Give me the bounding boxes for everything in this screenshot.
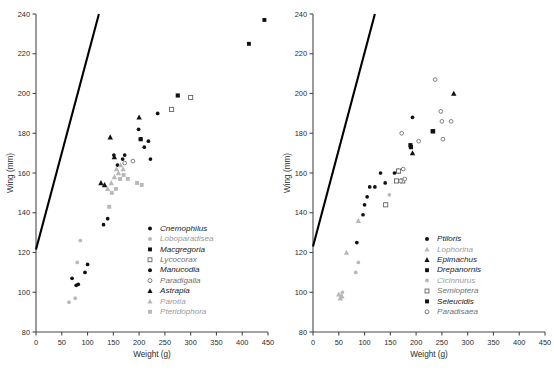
data-point: [70, 276, 74, 280]
scatter-plot-left: 8010012014016018020022024005010015020025…: [0, 0, 277, 370]
legend-item[interactable]: Drepanornis: [425, 265, 481, 274]
x-tick-label: 450: [539, 338, 551, 347]
legend-item[interactable]: Pteridophora: [148, 307, 207, 316]
legend-marker: [425, 279, 429, 283]
legend-item[interactable]: Macgregoria: [148, 245, 205, 254]
y-tick-label: 240: [295, 10, 307, 19]
data-point: [73, 296, 77, 300]
x-tick-label: 250: [159, 338, 171, 347]
y-tick-label: 140: [295, 208, 307, 217]
y-tick-label: 200: [18, 89, 30, 98]
series-loboparadisea: [67, 239, 82, 304]
data-point: [357, 261, 361, 265]
x-tick-label: 400: [513, 338, 525, 347]
x-tick-label: 350: [487, 338, 499, 347]
figure-root: 8010012014016018020022024005010015020025…: [0, 0, 554, 370]
data-point: [403, 177, 407, 181]
legend-item[interactable]: Semioptera: [425, 286, 479, 295]
x-tick-label: 300: [461, 338, 473, 347]
legend-item[interactable]: Ptiloris: [425, 234, 461, 243]
data-point: [98, 180, 103, 185]
y-tick-label: 160: [295, 169, 307, 178]
y-tick-label: 200: [295, 89, 307, 98]
data-point: [108, 134, 113, 139]
data-point: [417, 139, 421, 143]
data-point: [439, 110, 443, 114]
data-point: [397, 169, 401, 173]
data-point: [109, 180, 114, 185]
x-tick-label: 100: [81, 338, 93, 347]
legend-marker: [148, 227, 152, 231]
legend-label: Ptiloris: [437, 234, 461, 243]
legend-item[interactable]: Parotia: [147, 297, 186, 306]
data-point: [123, 161, 127, 165]
data-point: [142, 145, 146, 149]
y-tick-label: 120: [18, 248, 30, 257]
legend-label: Cnemophilus: [160, 224, 207, 233]
legend-item[interactable]: Lophorina: [424, 245, 473, 254]
legend-item[interactable]: Cnemophilus: [148, 224, 207, 233]
x-tick-label: 0: [34, 338, 38, 347]
legend-item[interactable]: Astrapia: [147, 286, 190, 295]
y-tick-label: 140: [18, 208, 30, 217]
series-astrapia: [98, 114, 142, 187]
data-point: [365, 195, 369, 199]
legend-label: Seleucidis: [437, 297, 474, 306]
legend-item[interactable]: Cicinnurus: [425, 276, 475, 285]
x-tick-label: 400: [236, 338, 248, 347]
legend-marker: [424, 257, 429, 262]
legend-marker: [148, 268, 152, 272]
data-point: [76, 282, 80, 286]
y-tick-label: 240: [18, 10, 30, 19]
legend-marker: [425, 299, 429, 303]
data-point: [441, 137, 445, 141]
data-point: [431, 129, 435, 133]
data-point: [156, 112, 160, 116]
legend-item[interactable]: Manucodia: [148, 265, 200, 274]
data-point: [110, 191, 114, 195]
legend-item[interactable]: Epimachus: [424, 255, 477, 264]
legend-item[interactable]: Seleucidis: [425, 297, 474, 306]
legend-marker: [148, 237, 152, 241]
legend-label: Paradigalla: [160, 276, 201, 285]
legend-marker: [425, 310, 429, 314]
series-epimachus: [395, 91, 456, 174]
y-tick-label: 180: [18, 129, 30, 138]
data-point: [440, 119, 444, 123]
legend-label: Lycocorax: [160, 255, 198, 264]
x-tick-label: 250: [436, 338, 448, 347]
legend-item[interactable]: Loboparadisea: [148, 234, 214, 243]
legend-item[interactable]: Lycocorax: [148, 255, 198, 264]
data-point: [123, 153, 127, 157]
legend-item[interactable]: Paradigalla: [148, 276, 201, 285]
legend-label: Macgregoria: [160, 245, 205, 254]
data-point: [102, 223, 106, 227]
legend: PtilorisLophorinaEpimachusDrepanornisCic…: [424, 234, 481, 316]
x-tick-label: 350: [210, 338, 222, 347]
legend-item[interactable]: Paradisaea: [425, 307, 478, 316]
x-tick-label: 200: [410, 338, 422, 347]
data-point: [75, 261, 79, 265]
y-axis-ticks: 80100120140160180200220240: [18, 10, 36, 337]
data-point: [131, 159, 135, 163]
data-point: [262, 18, 266, 22]
data-point: [373, 185, 377, 189]
data-point: [383, 181, 387, 185]
legend-label: Drepanornis: [437, 265, 481, 274]
y-axis-ticks: 80100120140160180200220240: [295, 10, 313, 337]
series-paradisaea: [399, 78, 453, 183]
legend-label: Astrapia: [159, 286, 190, 295]
legend-marker: [147, 288, 152, 293]
reference-line: [313, 14, 375, 247]
legend-marker: [425, 237, 429, 241]
data-point: [107, 205, 111, 209]
legend-label: Lophorina: [437, 245, 474, 254]
data-point: [449, 119, 453, 123]
chart-panel-left: 8010012014016018020022024005010015020025…: [0, 0, 277, 370]
data-point: [137, 127, 141, 131]
series-lycocorax: [170, 95, 193, 111]
legend-label: Cicinnurus: [437, 276, 475, 285]
reference-line: [36, 14, 99, 250]
data-point: [411, 115, 415, 119]
axes-group: [313, 14, 545, 332]
